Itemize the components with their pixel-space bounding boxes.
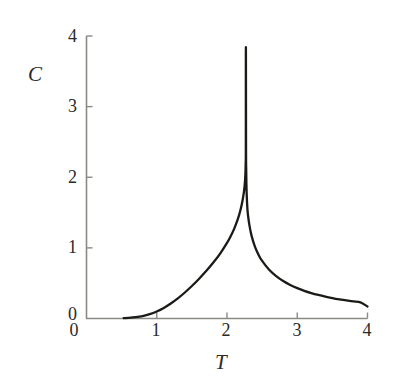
x-axis-title: T xyxy=(215,352,227,373)
chart-figure: 4 3 2 1 0 0 1 2 3 4 C T xyxy=(0,0,400,385)
y-tick-label-2: 2 xyxy=(55,168,77,186)
x-tick-label-0: 0 xyxy=(62,321,86,339)
x-tick-label-4: 4 xyxy=(355,321,379,339)
x-tick-label-2: 2 xyxy=(214,321,238,339)
axis-ticks xyxy=(87,36,368,319)
y-axis-title: C xyxy=(28,64,42,85)
data-curve xyxy=(124,47,368,318)
y-tick-label-3: 3 xyxy=(55,97,77,115)
y-tick-label-4: 4 xyxy=(55,27,77,45)
x-tick-label-1: 1 xyxy=(144,321,168,339)
x-tick-label-3: 3 xyxy=(285,321,309,339)
y-tick-label-1: 1 xyxy=(55,238,77,256)
plot-area xyxy=(0,0,400,385)
